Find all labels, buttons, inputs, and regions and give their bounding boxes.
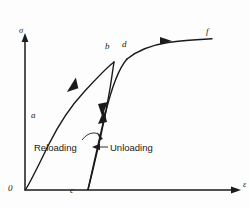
loading-direction-arrowhead xyxy=(63,77,79,91)
reloading-annotation: Reloading xyxy=(34,143,77,153)
point-label-b: b xyxy=(105,42,110,51)
strain-axis-arrowhead xyxy=(231,187,241,194)
reloading-leader xyxy=(82,132,103,140)
unloading-leader-arrowhead xyxy=(92,144,100,150)
stress-axis xyxy=(22,33,29,190)
origin-label: 0 xyxy=(8,184,13,193)
point-label-d: d xyxy=(122,40,127,49)
reloading-path-c-to-d xyxy=(88,59,127,190)
stress-strain-figure: σ ε 0 a b c d f Reloading Unloading xyxy=(0,0,250,208)
stress-axis-label: σ xyxy=(19,26,23,35)
point-label-c: c xyxy=(70,186,74,195)
point-label-f: f xyxy=(206,27,209,36)
initial-loading-curve xyxy=(26,62,114,189)
point-label-a: a xyxy=(31,111,36,120)
reloading-curve xyxy=(88,59,127,190)
unloading-annotation: Unloading xyxy=(110,143,153,153)
post-reload-curve xyxy=(127,37,212,59)
plot-canvas xyxy=(0,0,250,208)
loading-path-d-to-f xyxy=(127,39,212,59)
unloading-leader xyxy=(92,144,108,150)
strain-axis-label: ε xyxy=(243,180,246,189)
strain-axis xyxy=(25,187,241,194)
loading-path-0-to-b xyxy=(26,62,114,189)
